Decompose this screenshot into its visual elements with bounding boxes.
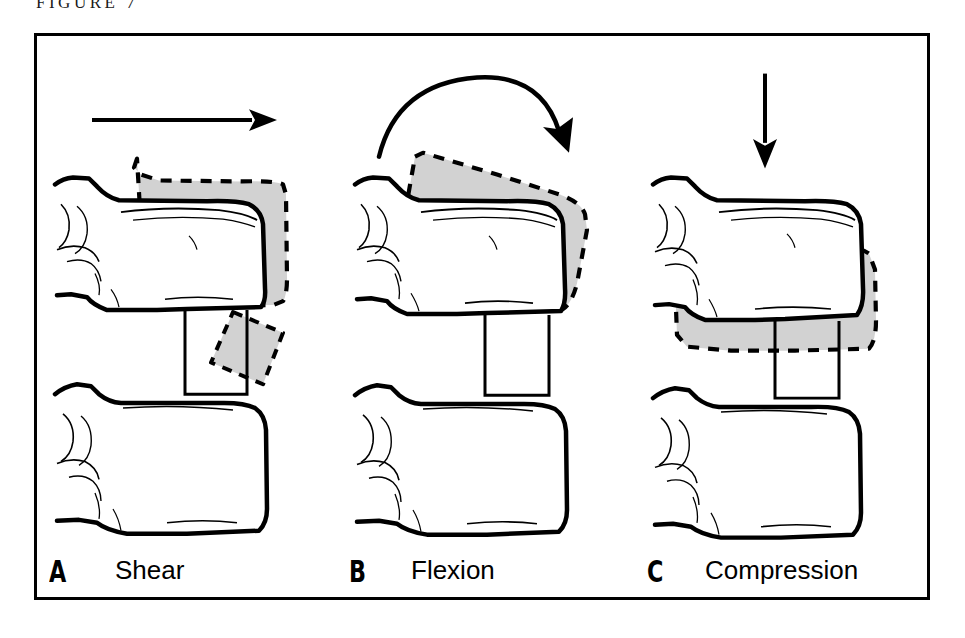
flexion-illustration — [337, 36, 635, 597]
shear-illustration — [37, 36, 337, 597]
disc-space-marker-flexion — [485, 315, 549, 395]
figure-caption: FIGURE 7 — [36, 0, 138, 13]
panel-label-compression: Compression — [705, 557, 858, 583]
lower-vertebra-flexion — [355, 385, 567, 534]
figure-frame: A Shear — [34, 33, 930, 600]
flexion-force-arrow — [379, 77, 573, 156]
lower-vertebra-shear — [55, 384, 267, 533]
compression-force-arrow — [753, 74, 777, 169]
lower-vertebra-compression — [653, 388, 861, 537]
compression-illustration — [635, 36, 927, 597]
panel-letter-a: A — [49, 556, 66, 587]
panel-label-shear: Shear — [115, 557, 184, 583]
panel-flexion: B Flexion — [337, 36, 635, 597]
upper-vertebra-compression — [653, 177, 863, 319]
panel-letter-c: C — [647, 556, 663, 587]
panel-letter-b: B — [349, 556, 366, 587]
shear-force-arrow — [92, 109, 277, 131]
panel-shear: A Shear — [37, 36, 337, 597]
panel-label-flexion: Flexion — [411, 557, 495, 583]
panel-compression: C Compression — [635, 36, 927, 597]
